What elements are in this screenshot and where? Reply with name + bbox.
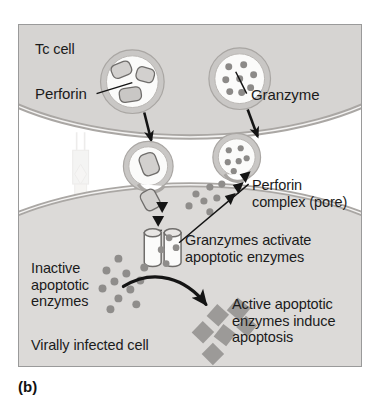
- perforin-vesicle-fusing: [123, 141, 173, 191]
- figure-caption: (b): [18, 378, 37, 395]
- perforin-vesicle: [101, 50, 165, 114]
- label-active-apoptotic-enzymes: Active apoptotic enzymes induce apoptosi…: [232, 296, 335, 346]
- granzyme-vesicle-fusing: [213, 133, 261, 181]
- label-virally-infected-cell: Virally infected cell: [31, 337, 149, 354]
- label-granzymes-activate: Granzymes activate apoptotic enzymes: [185, 232, 311, 265]
- label-inactive-apoptotic-enzymes: Inactive apoptotic enzymes: [31, 260, 89, 310]
- label-perforin-complex-pore: Perforin complex (pore): [252, 177, 347, 210]
- label-granzyme: Granzyme: [251, 86, 319, 103]
- figure-panel: Tc cell Perforin Granzyme Perforin compl…: [18, 24, 362, 367]
- label-tc-cell: Tc cell: [35, 41, 75, 58]
- label-perforin: Perforin: [35, 85, 87, 102]
